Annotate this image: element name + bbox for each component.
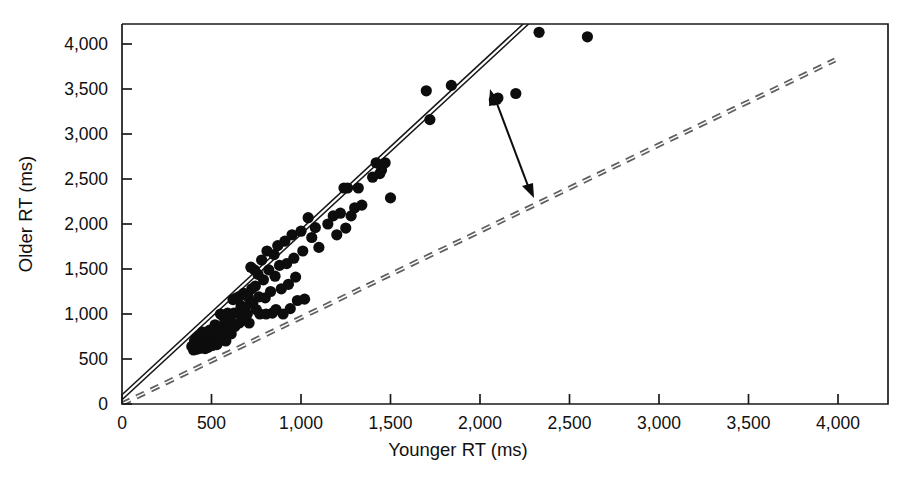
y-tick-label: 1,000 xyxy=(64,304,108,324)
scatter-plot-figure: 05001,0001,5002,0002,5003,0003,5004,000 … xyxy=(0,0,907,480)
x-tick-label: 1,000 xyxy=(279,413,323,433)
y-tick-label: 0 xyxy=(98,394,108,414)
x-tick-label: 0 xyxy=(117,413,127,433)
data-point xyxy=(288,253,299,264)
data-point xyxy=(582,31,593,42)
data-point xyxy=(335,208,346,219)
data-point xyxy=(299,294,310,305)
data-point xyxy=(424,114,435,125)
data-point xyxy=(510,88,521,99)
x-tick-label: 2,000 xyxy=(458,413,502,433)
y-tick-label: 2,000 xyxy=(64,214,108,234)
data-point xyxy=(446,80,457,91)
x-tick-label: 500 xyxy=(197,413,226,433)
data-point xyxy=(380,157,391,168)
data-point xyxy=(295,226,306,237)
data-point xyxy=(258,274,269,285)
x-tick-label: 2,500 xyxy=(548,413,592,433)
data-point xyxy=(421,85,432,96)
data-point xyxy=(533,27,544,38)
y-tick-label: 3,000 xyxy=(64,124,108,144)
data-point xyxy=(356,200,367,211)
y-tick-label: 500 xyxy=(79,349,108,369)
data-point xyxy=(306,232,317,243)
data-point xyxy=(269,271,280,282)
data-point xyxy=(353,182,364,193)
data-point xyxy=(297,245,308,256)
y-tick-label: 4,000 xyxy=(64,34,108,54)
x-tick-label: 3,500 xyxy=(727,413,771,433)
x-tick-label: 4,000 xyxy=(816,413,860,433)
data-point xyxy=(342,182,353,193)
y-axis-title: Older RT (ms) xyxy=(15,156,36,273)
data-point xyxy=(290,272,301,283)
data-point xyxy=(313,242,324,253)
data-point xyxy=(385,192,396,203)
x-tick-label: 1,500 xyxy=(369,413,413,433)
data-point xyxy=(303,212,314,223)
x-axis-title: Younger RT (ms) xyxy=(388,439,528,460)
data-point xyxy=(243,317,254,328)
y-tick-label: 3,500 xyxy=(64,79,108,99)
y-tick-label: 2,500 xyxy=(64,169,108,189)
chart-canvas: 05001,0001,5002,0002,5003,0003,5004,000 … xyxy=(0,0,907,480)
data-point xyxy=(340,222,351,233)
data-point xyxy=(331,229,342,240)
x-tick-label: 3,000 xyxy=(637,413,681,433)
data-point xyxy=(265,286,276,297)
data-point xyxy=(310,222,321,233)
y-tick-label: 1,500 xyxy=(64,259,108,279)
